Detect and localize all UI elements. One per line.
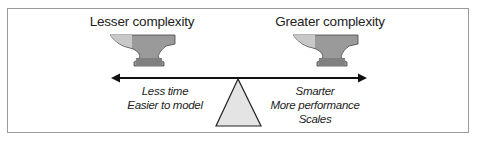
- lesser-complexity-label: Lesser complexity: [90, 14, 195, 29]
- note-scales: Scales: [270, 112, 359, 126]
- note-smarter: Smarter: [270, 84, 359, 98]
- anvil-icon-left: [110, 35, 175, 66]
- seesaw-diagram: [0, 0, 477, 141]
- note-easier-to-model: Easier to model: [127, 98, 202, 112]
- anvil-icon-right: [293, 35, 358, 66]
- note-less-time: Less time: [127, 84, 202, 98]
- right-notes: Smarter More performance Scales: [270, 84, 359, 126]
- left-notes: Less time Easier to model: [127, 84, 202, 112]
- greater-complexity-label: Greater complexity: [275, 14, 385, 29]
- note-more-performance: More performance: [270, 98, 359, 112]
- fulcrum-triangle: [216, 79, 261, 126]
